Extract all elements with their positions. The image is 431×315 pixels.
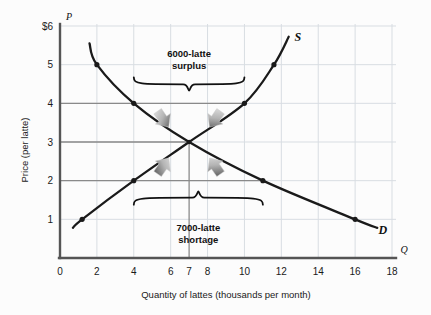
y-tick-label: 1 — [47, 214, 53, 225]
y-tick-label: 4 — [47, 98, 53, 109]
data-point-marker — [131, 178, 136, 183]
x-tick-label: 0 — [57, 266, 63, 277]
shortage-annotation-line1: 7000-latte — [176, 222, 220, 233]
x-axis-title: Quantity of lattes (thousands per month) — [141, 289, 311, 300]
x-tick-label: 12 — [276, 266, 288, 277]
supply-curve-label: S — [295, 30, 302, 44]
equilibrium-point — [187, 140, 191, 144]
y-axis-title: Price (per latte) — [19, 118, 30, 183]
demand-curve-label: D — [377, 223, 387, 237]
x-tick-label: 10 — [239, 266, 251, 277]
data-point-marker — [353, 217, 358, 222]
data-point-marker — [271, 62, 276, 67]
data-point-marker — [242, 101, 247, 106]
price-axis-symbol: P — [65, 11, 72, 22]
x-tick-label: 6 — [168, 266, 174, 277]
x-tick-label: 18 — [386, 266, 398, 277]
x-tick-label: 2 — [94, 266, 100, 277]
data-point-marker — [131, 101, 136, 106]
x-tick-label: 4 — [131, 266, 137, 277]
y-tick-label: $6 — [42, 21, 54, 32]
x-tick-label: 7 — [186, 266, 192, 277]
y-tick-label: 3 — [47, 137, 53, 148]
chart-canvas: 0246781012141618 12345$6 6000-latte surp… — [0, 0, 431, 315]
data-point-marker — [94, 62, 99, 67]
surplus-annotation-line2: surplus — [172, 60, 206, 71]
x-tick-label: 14 — [313, 266, 325, 277]
y-tick-label: 2 — [47, 175, 53, 186]
quantity-axis-symbol: Q — [400, 244, 408, 255]
shortage-annotation-line2: shortage — [178, 234, 218, 245]
surplus-annotation-line1: 6000-latte — [167, 48, 211, 59]
data-point-marker — [260, 178, 265, 183]
x-tick-label: 8 — [205, 266, 211, 277]
data-point-marker — [80, 217, 85, 222]
supply-demand-chart: 0246781012141618 12345$6 6000-latte surp… — [0, 0, 431, 315]
x-tick-label: 16 — [350, 266, 362, 277]
y-tick-label: 5 — [47, 59, 53, 70]
